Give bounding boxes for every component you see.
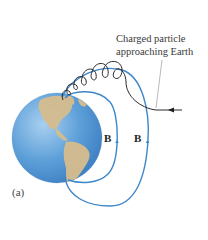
field-label-inner: B <box>104 132 111 144</box>
field-arrow-inner-icon <box>115 140 119 143</box>
caption-line-2: approaching Earth <box>116 45 193 58</box>
field-arrow-outer-icon <box>146 140 150 143</box>
caption-pointer-line <box>156 60 162 108</box>
field-label-outer: B <box>134 132 141 144</box>
earth-globe <box>12 93 102 186</box>
particle-caption: Charged particle approaching Earth <box>116 32 193 58</box>
caption-line-1: Charged particle <box>116 32 193 45</box>
incoming-arrow-icon <box>168 107 174 112</box>
part-label: (a) <box>12 186 24 198</box>
